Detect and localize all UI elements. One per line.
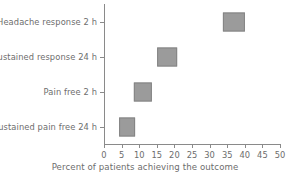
data-point-marker bbox=[223, 12, 245, 31]
x-axis-tick bbox=[280, 144, 281, 148]
chart-figure: 05101520253035404550 Headache response 2… bbox=[0, 0, 290, 179]
data-point-marker bbox=[134, 82, 152, 101]
y-axis-tick bbox=[100, 22, 104, 23]
x-axis-tick bbox=[104, 144, 105, 148]
x-axis-tick bbox=[192, 144, 193, 148]
y-axis-tick bbox=[100, 92, 104, 93]
x-axis-tick-label: 0 bbox=[101, 150, 106, 160]
x-axis-tick-label: 40 bbox=[240, 150, 251, 160]
y-axis-tick bbox=[100, 57, 104, 58]
x-axis-tick-label: 5 bbox=[119, 150, 124, 160]
x-axis-tick-label: 45 bbox=[257, 150, 268, 160]
x-axis-tick bbox=[139, 144, 140, 148]
x-axis-tick bbox=[174, 144, 175, 148]
y-axis-category-label: Sustained pain free 24 h bbox=[0, 122, 97, 132]
x-axis-tick-label: 30 bbox=[204, 150, 215, 160]
x-axis-tick bbox=[210, 144, 211, 148]
data-point-marker bbox=[119, 117, 135, 136]
x-axis-tick-label: 20 bbox=[169, 150, 180, 160]
x-axis-tick bbox=[245, 144, 246, 148]
y-axis-category-label: Headache response 2 h bbox=[0, 17, 97, 27]
x-axis-tick-label: 35 bbox=[222, 150, 233, 160]
x-axis-title: Percent of patients achieving the outcom… bbox=[0, 162, 290, 172]
x-axis-tick bbox=[122, 144, 123, 148]
x-axis-tick-label: 25 bbox=[187, 150, 198, 160]
x-axis-tick-label: 50 bbox=[275, 150, 286, 160]
x-axis-tick-label: 15 bbox=[152, 150, 163, 160]
y-axis-tick bbox=[100, 127, 104, 128]
x-axis-tick bbox=[157, 144, 158, 148]
x-axis-tick-label: 10 bbox=[134, 150, 145, 160]
y-axis-category-label: Pain free 2 h bbox=[44, 87, 97, 97]
y-axis-category-label: Sustained response 24 h bbox=[0, 52, 97, 62]
x-axis-tick bbox=[262, 144, 263, 148]
x-axis-tick bbox=[227, 144, 228, 148]
data-point-marker bbox=[158, 47, 178, 66]
